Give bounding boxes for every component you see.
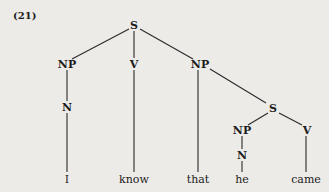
node-np-embedded: NP bbox=[233, 125, 251, 136]
word-i: I bbox=[65, 174, 69, 185]
node-n-subject: N bbox=[62, 102, 72, 113]
word-know: know bbox=[119, 174, 149, 185]
edge-s2-v2 bbox=[279, 113, 302, 125]
tree-edges bbox=[0, 0, 329, 192]
node-v-embedded: V bbox=[303, 125, 312, 136]
node-v-main: V bbox=[130, 59, 139, 70]
node-np-subject: NP bbox=[58, 59, 76, 70]
word-came: came bbox=[291, 174, 321, 185]
edge-s2-np3 bbox=[248, 113, 268, 125]
node-s-root: S bbox=[130, 20, 138, 31]
node-np-object: NP bbox=[191, 59, 209, 70]
node-n-embedded: N bbox=[237, 150, 247, 161]
edge-s-np1 bbox=[72, 29, 129, 59]
word-that: that bbox=[187, 174, 209, 185]
node-s-embedded: S bbox=[269, 103, 277, 114]
word-he: he bbox=[235, 174, 249, 185]
edge-s-np2 bbox=[140, 29, 193, 59]
edge-np2-s2 bbox=[210, 69, 266, 103]
